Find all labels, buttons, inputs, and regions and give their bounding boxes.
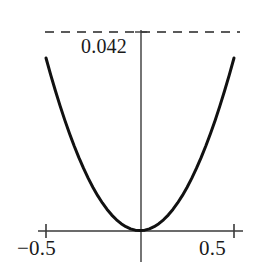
x-axis-min-label: −0.5	[17, 238, 56, 259]
x-axis-max-label: 0.5	[199, 238, 226, 259]
data-curve-parabola	[46, 58, 234, 231]
y-axis-value-label: 0.042	[81, 36, 127, 56]
plot-figure: 0.042 −0.5 0.5	[0, 0, 254, 272]
plot-canvas	[0, 0, 254, 272]
